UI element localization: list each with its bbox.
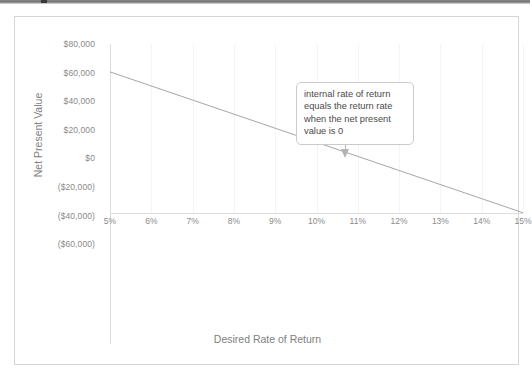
gridline-vertical [275,44,276,213]
gridline-vertical [193,44,194,213]
x-tick-label: 7% [186,216,198,226]
x-tick-label: 11% [350,216,366,226]
gridline-vertical [234,44,235,213]
y-axis-line [110,44,111,344]
gridline-vertical [482,44,483,213]
x-tick-label: 15% [514,216,531,226]
irr-callout-box: internal rate of return equals the retur… [296,82,414,145]
x-axis-tick-labels: 5%6%7%8%9%10%11%12%13%14%15% [15,216,520,230]
x-tick-label: 9% [269,216,281,226]
gridline-vertical [151,44,152,213]
chart-frame[interactable]: $80,000$60,000$40,000$20,000$0($20,000)(… [14,16,519,365]
irr-callout-arrow-icon [341,149,349,158]
x-tick-label: 8% [228,216,240,226]
x-tick-label: 5% [104,216,116,226]
gridline-vertical [440,44,441,213]
window-chrome-strip [0,0,530,4]
x-tick-label: 12% [391,216,408,226]
gridline-vertical [523,44,524,213]
window-chrome-notch [41,0,47,3]
y-axis-title: Net Present Value [32,65,44,205]
x-axis-line [110,213,523,214]
y-axis-tick-labels: $80,000$60,000$40,000$20,000$0($20,000)(… [19,17,95,366]
y-tick-label: $80,000 [21,39,95,49]
x-tick-label: 6% [145,216,157,226]
y-tick-label: ($60,000) [21,239,95,249]
x-tick-label: 13% [432,216,449,226]
x-tick-label: 10% [308,216,325,226]
x-axis-title: Desired Rate of Return [15,333,520,345]
x-tick-label: 14% [473,216,490,226]
